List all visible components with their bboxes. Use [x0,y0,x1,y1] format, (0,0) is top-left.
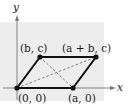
parallelogram-diagram: y x (b, c) (a + b, c) (0, 0) (a, 0) [0,0,129,108]
vertex-origin-dot [14,85,19,90]
vertex-b-c-dot [37,54,42,59]
x-axis-label: x [117,81,123,93]
vertex-label-b-c: (b, c) [20,42,47,54]
y-axis-arrow-icon [15,15,19,21]
x-axis-arrow-icon [110,86,116,90]
vertex-label-a-zero: (a, 0) [68,92,96,104]
y-axis-label: y [12,1,20,13]
vertex-label-origin: (0, 0) [18,92,46,104]
vertex-a-zero-dot [70,85,75,90]
vertex-label-a-plus-b-c: (a + b, c) [62,42,111,54]
vertex-a-plus-b-c-dot [93,54,98,59]
